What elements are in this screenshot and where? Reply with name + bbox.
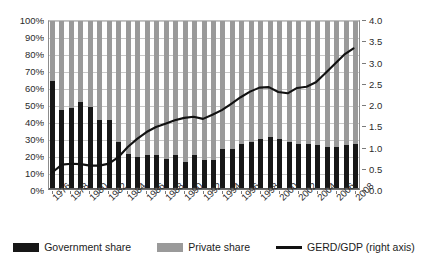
- y-axis-right-tick-label: 2.0: [369, 100, 382, 111]
- x-axis-tick: [99, 191, 100, 194]
- bar-segment-government-share: [107, 120, 112, 189]
- y-axis-left-tick: [40, 105, 44, 106]
- y-axis-right-tick-label: 0.5: [369, 163, 382, 174]
- bar-column: [268, 21, 273, 189]
- y-axis-right: 0.00.51.01.52.02.53.03.54.0: [362, 20, 402, 190]
- x-axis: 1976197819801982198419861988199019921994…: [48, 191, 360, 235]
- bar-segment-private-share: [306, 21, 311, 144]
- x-axis-tick: [345, 191, 346, 194]
- bar-column: [88, 21, 93, 189]
- y-axis-right-tick-label: 1.5: [369, 121, 382, 132]
- bar-segment-private-share: [287, 21, 292, 142]
- chart-container: 0%10%20%30%40%50%60%70%80%90%100% 0.00.5…: [0, 0, 428, 263]
- bar-segment-private-share: [154, 21, 159, 155]
- bar-column: [126, 21, 131, 189]
- bar-segment-private-share: [277, 21, 282, 139]
- x-axis-tick: [61, 191, 62, 194]
- bar-segment-government-share: [50, 81, 55, 189]
- y-axis-left-tick: [40, 122, 44, 123]
- x-axis-tick: [175, 191, 176, 194]
- x-axis-tick: [137, 191, 138, 194]
- y-axis-right-tick-label: 1.0: [369, 142, 382, 153]
- y-axis-right-tick-label: 3.0: [369, 57, 382, 68]
- legend-color-swatch-icon: [157, 243, 183, 252]
- bar-column: [239, 21, 244, 189]
- bar-segment-government-share: [97, 120, 102, 189]
- y-axis-right-tick: [362, 20, 366, 21]
- bar-segment-government-share: [78, 102, 83, 189]
- bar-column: [230, 21, 235, 189]
- bar-segment-government-share: [239, 144, 244, 189]
- bar-column: [154, 21, 159, 189]
- plot-area: [48, 20, 360, 190]
- x-axis-tick: [156, 191, 157, 194]
- y-axis-right-tick: [362, 148, 366, 149]
- x-axis-tick: [212, 191, 213, 194]
- bar-segment-private-share: [296, 21, 301, 144]
- bar-segment-government-share: [334, 147, 339, 189]
- bar-column: [173, 21, 178, 189]
- bar-column: [220, 21, 225, 189]
- bar-column: [202, 21, 207, 189]
- bar-segment-private-share: [220, 21, 225, 149]
- bar-segment-private-share: [315, 21, 320, 145]
- x-axis-tick: [231, 191, 232, 194]
- bar-column: [287, 21, 292, 189]
- legend-label: GERD/GDP (right axis): [307, 241, 415, 253]
- bar-column: [334, 21, 339, 189]
- legend-item[interactable]: Government share: [13, 241, 131, 253]
- y-axis-left-tick: [40, 88, 44, 89]
- bar-column: [277, 21, 282, 189]
- legend-item[interactable]: Private share: [157, 241, 250, 253]
- bar-segment-private-share: [145, 21, 150, 155]
- bar-segment-government-share: [258, 139, 263, 189]
- bar-column: [353, 21, 358, 189]
- bar-segment-government-share: [126, 154, 131, 189]
- bar-column: [164, 21, 169, 189]
- legend-item[interactable]: GERD/GDP (right axis): [276, 241, 415, 253]
- bar-segment-private-share: [59, 21, 64, 110]
- bar-column: [315, 21, 320, 189]
- bar-segment-private-share: [173, 21, 178, 155]
- y-axis-left-tick: [40, 54, 44, 55]
- bar-column: [344, 21, 349, 189]
- bar-column: [116, 21, 121, 189]
- bar-segment-government-share: [353, 144, 358, 189]
- legend-label: Private share: [188, 241, 250, 253]
- bar-column: [258, 21, 263, 189]
- bar-column: [325, 21, 330, 189]
- bar-segment-private-share: [164, 21, 169, 159]
- bar-segment-private-share: [268, 21, 273, 137]
- x-axis-tick: [118, 191, 119, 194]
- bar-column: [78, 21, 83, 189]
- bar-column: [296, 21, 301, 189]
- bar-segment-private-share: [334, 21, 339, 147]
- bar-segment-government-share: [145, 155, 150, 189]
- bar-segment-private-share: [126, 21, 131, 154]
- y-axis-left-tick: [40, 20, 44, 21]
- bar-segment-government-share: [296, 144, 301, 189]
- bar-segment-private-share: [116, 21, 121, 142]
- bar-segment-private-share: [78, 21, 83, 102]
- bar-series-group: [49, 21, 359, 189]
- bar-column: [50, 21, 55, 189]
- y-axis-left-tick: [40, 173, 44, 174]
- bar-column: [192, 21, 197, 189]
- bar-column: [135, 21, 140, 189]
- bar-segment-private-share: [202, 21, 207, 160]
- bar-segment-government-share: [59, 110, 64, 189]
- bar-segment-private-share: [258, 21, 263, 139]
- legend-line-swatch-icon: [276, 246, 302, 249]
- bar-column: [69, 21, 74, 189]
- bar-column: [107, 21, 112, 189]
- x-axis-tick: [326, 191, 327, 194]
- bar-segment-private-share: [325, 21, 330, 147]
- y-axis-right-tick: [362, 105, 366, 106]
- y-axis-left-tick: [40, 37, 44, 38]
- y-axis-left: 0%10%20%30%40%50%60%70%80%90%100%: [0, 20, 44, 190]
- bar-column: [59, 21, 64, 189]
- bar-segment-private-share: [107, 21, 112, 120]
- bar-segment-private-share: [230, 21, 235, 149]
- y-axis-left-tick: [40, 71, 44, 72]
- bar-segment-private-share: [50, 21, 55, 81]
